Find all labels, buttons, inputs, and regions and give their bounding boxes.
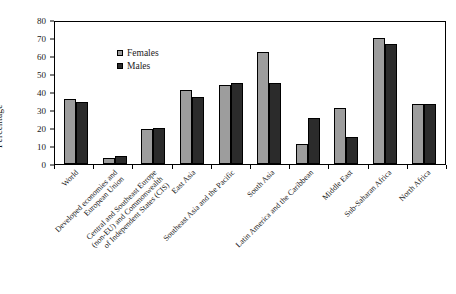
plot-area: Females Males: [54, 21, 446, 165]
bar-males: [115, 156, 127, 164]
bar-females: [219, 85, 231, 164]
bar-females: [141, 129, 153, 164]
bar-group: [57, 22, 96, 164]
bar-females: [296, 144, 308, 164]
x-axis-label: Latin America and the Caribbean: [234, 168, 316, 250]
x-axis-label: Central and Southeast Europe(non-EU) and…: [83, 168, 171, 256]
bar-group: [404, 22, 443, 164]
x-axis-label-line: South Asia: [245, 168, 276, 199]
y-axis-tick-label: 50: [37, 71, 46, 80]
bar-females: [180, 90, 192, 164]
bar-females: [257, 52, 269, 164]
bar-females: [373, 38, 385, 164]
bar-females: [412, 104, 424, 164]
bar-group: [96, 22, 135, 164]
bar-males: [153, 128, 165, 164]
y-axis-ticks: 01020304050607080: [0, 21, 54, 165]
x-axis-label-line: North Africa: [398, 168, 433, 203]
y-axis-tick-label: 30: [37, 107, 46, 116]
bar-group: [289, 22, 328, 164]
bar-group: [211, 22, 250, 164]
bar-males: [424, 104, 436, 164]
bar-males: [346, 137, 358, 164]
bar-chart: Percentage 01020304050607080 Females Mal…: [0, 0, 456, 294]
bar-group: [173, 22, 212, 164]
bar-group: [366, 22, 405, 164]
bar-groups: [55, 22, 445, 164]
y-axis-tick-label: 20: [37, 125, 46, 134]
bar-females: [64, 99, 76, 164]
y-axis-tick-label: 60: [37, 53, 46, 62]
x-axis-label: World: [60, 168, 81, 189]
bar-males: [76, 102, 88, 164]
x-axis-label-line: Latin America and the Caribbean: [234, 168, 316, 250]
bar-males: [231, 83, 243, 164]
x-axis-label: East Asia: [170, 168, 198, 196]
bar-males: [308, 118, 320, 164]
bar-males: [192, 97, 204, 164]
bar-males: [385, 44, 397, 164]
x-axis-label-line: East Asia: [170, 168, 198, 196]
x-axis-label: Middle East: [321, 168, 355, 202]
y-axis-tick-label: 10: [37, 143, 46, 152]
x-axis-label-line: Middle East: [321, 168, 355, 202]
bar-group: [250, 22, 289, 164]
y-axis-tick-label: 40: [37, 89, 46, 98]
x-axis-label: Southeast Asia and the Pacific: [162, 168, 237, 243]
x-axis-label: North Africa: [398, 168, 433, 203]
x-axis-label: South Asia: [245, 168, 276, 199]
x-axis-label-line: Southeast Asia and the Pacific: [162, 168, 237, 243]
bar-group: [327, 22, 366, 164]
y-axis-tick-label: 80: [37, 17, 46, 26]
x-axis-label-line: World: [60, 168, 81, 189]
bar-group: [134, 22, 173, 164]
bar-males: [269, 83, 281, 164]
bar-females: [103, 158, 115, 164]
y-axis-tick-label: 70: [37, 35, 46, 44]
bar-females: [334, 108, 346, 164]
x-axis-labels: WorldDeveloped economies andEuropean Uni…: [0, 166, 456, 294]
